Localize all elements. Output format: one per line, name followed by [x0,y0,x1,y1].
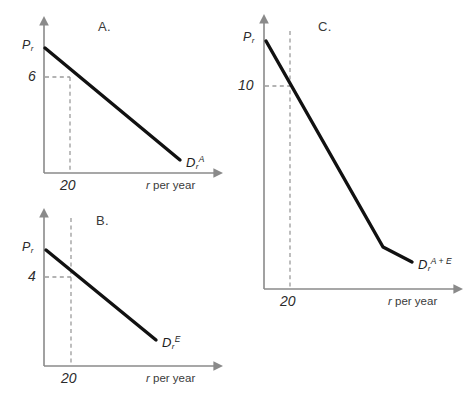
panel-b-y-axis-label-sub: r [30,246,33,255]
panel-c-curve-label: DrA + E [418,257,452,273]
panel-a-curve-label-sup: A [198,154,204,164]
panel-c-y-axis-label-sub: r [251,36,254,45]
panel-b-curve-label: DrE [162,335,181,351]
panel-b-x-axis-caption-rest: per year [150,372,195,384]
panel-a-title: A. [98,20,111,33]
panel-a-price-tick: 6 [28,69,36,83]
panel-c-x-axis-caption-rest: per year [392,295,437,307]
economics-demand-curve-figure: A. Pr 6 20 r per year DrA B. Pr 4 20 r p… [0,0,475,406]
panel-a-quantity-tick: 20 [60,178,76,192]
panel-c-graph [264,22,455,289]
panel-a-x-axis-caption: r per year [146,180,195,192]
panel-b-curve-label-main: D [162,335,171,350]
panel-a-y-axis-label: Pr [22,39,33,53]
panel-a-curve-label-main: D [186,155,195,170]
panel-b-quantity-tick: 20 [61,371,77,385]
panel-b-x-axis-caption: r per year [146,373,195,385]
panel-c-curve-label-main: D [418,257,427,272]
panel-c-price-tick: 10 [238,78,254,92]
panel-b-title: B. [96,214,109,227]
panel-b-curve-label-sup: E [174,334,180,344]
panel-a-y-axis-label-sub: r [30,44,33,53]
panel-b-graph [44,216,215,366]
panel-b-y-axis-label: Pr [22,241,33,255]
panel-c-title: C. [318,20,332,33]
panel-b-demand-curve [46,250,156,340]
panel-c-demand-curve [266,41,412,262]
panel-a-x-axis-caption-rest: per year [150,179,195,191]
panel-a-curve-label: DrA [186,155,205,171]
figure-vector-layer [0,0,475,406]
panel-b-price-tick: 4 [28,269,36,283]
panel-a-graph [44,24,215,173]
panel-c-y-axis-label: Pr [243,31,254,45]
panel-c-quantity-tick: 20 [280,294,296,308]
panel-c-x-axis-caption: r per year [388,296,437,308]
panel-c-curve-label-sup: A + E [430,256,451,266]
panel-a-demand-curve [45,48,180,160]
